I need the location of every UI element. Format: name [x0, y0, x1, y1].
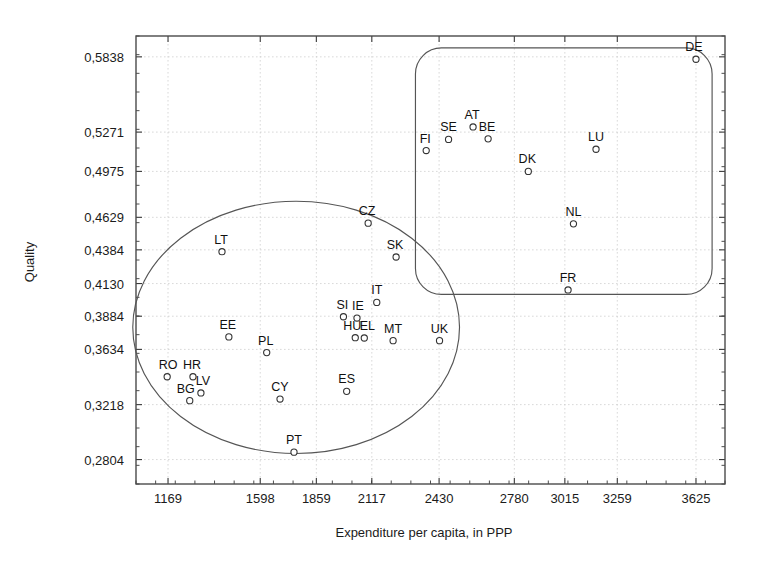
data-point[interactable]: FI [420, 132, 431, 154]
data-point[interactable]: CZ [359, 204, 376, 226]
data-point-label: EL [360, 319, 375, 333]
chart-figure: DEATSEBEFILUDKNLFRCZSKLTITSIIEHUELMTUKEE… [0, 0, 765, 575]
data-point-label: CY [271, 380, 289, 394]
x-tick-label: 2780 [500, 491, 529, 506]
data-point-marker[interactable] [187, 398, 193, 404]
minor-tick-marks [136, 36, 725, 484]
data-point[interactable]: SE [440, 120, 457, 142]
data-point-marker[interactable] [291, 449, 297, 455]
data-point-label: BE [479, 120, 496, 134]
data-point-label: SE [440, 120, 457, 134]
data-point-marker[interactable] [565, 287, 571, 293]
major-tick-marks [136, 36, 725, 484]
data-point-marker[interactable] [374, 299, 380, 305]
data-point[interactable]: SI [337, 298, 349, 320]
data-point-label: CZ [359, 204, 376, 218]
data-point-label: LT [214, 233, 228, 247]
data-point-label: IE [352, 299, 364, 313]
data-point-marker[interactable] [361, 335, 367, 341]
data-point[interactable]: EL [360, 319, 375, 341]
data-point[interactable]: BE [479, 120, 496, 142]
data-point[interactable]: HU [343, 319, 361, 341]
data-point[interactable]: EE [220, 318, 237, 340]
x-axis-tick-labels: 116915981859211724302780301532593625 [154, 491, 710, 506]
data-point-label: LV [196, 374, 211, 388]
data-point-label: PT [286, 433, 302, 447]
data-point-marker[interactable] [393, 254, 399, 260]
y-axis-tick-labels: 0,58380,52710,49750,46290,43840,41300,38… [84, 50, 124, 468]
data-point-label: HR [183, 358, 201, 372]
data-point-label: IT [371, 283, 382, 297]
data-point-marker[interactable] [365, 220, 371, 226]
y-tick-label: 0,2804 [84, 453, 124, 468]
data-point-marker[interactable] [226, 334, 232, 340]
y-axis-title: Quality [22, 241, 37, 282]
data-point[interactable]: LU [588, 130, 604, 152]
data-point-label: FR [560, 271, 577, 285]
y-tick-label: 0,3634 [84, 342, 124, 357]
y-tick-label: 0,3884 [84, 309, 124, 324]
y-tick-label: 0,5838 [84, 50, 124, 65]
data-point-label: EE [220, 318, 237, 332]
data-point[interactable]: ES [338, 372, 355, 394]
y-tick-label: 0,4130 [84, 277, 124, 292]
data-point-marker[interactable] [525, 168, 531, 174]
data-point-label: DE [685, 40, 702, 54]
x-tick-label: 3259 [603, 491, 632, 506]
data-point-marker[interactable] [390, 338, 396, 344]
data-point-marker[interactable] [445, 136, 451, 142]
data-point-marker[interactable] [344, 388, 350, 394]
cluster-outline-left-ellipse [133, 201, 460, 453]
data-point-marker[interactable] [470, 124, 476, 130]
data-point[interactable]: AT [465, 108, 480, 130]
y-tick-label: 0,4384 [84, 243, 124, 258]
x-tick-label: 2430 [425, 491, 454, 506]
data-point[interactable]: NL [565, 205, 581, 227]
data-point-marker[interactable] [593, 146, 599, 152]
data-point[interactable]: LT [214, 233, 228, 255]
data-point[interactable]: DE [685, 40, 702, 62]
data-point-label: ES [338, 372, 355, 386]
data-point-marker[interactable] [436, 338, 442, 344]
data-point-label: PL [258, 334, 273, 348]
data-point-marker[interactable] [264, 349, 270, 355]
y-tick-label: 0,5271 [84, 125, 124, 140]
data-point-label: LU [588, 130, 604, 144]
data-point[interactable]: BG [177, 382, 195, 404]
gridlines [136, 36, 725, 484]
data-point[interactable]: CY [271, 380, 289, 402]
data-point[interactable]: FR [560, 271, 577, 293]
x-tick-label: 1169 [154, 491, 182, 506]
x-tick-label: 1598 [246, 491, 275, 506]
data-point-marker[interactable] [219, 249, 225, 255]
data-point[interactable]: SK [387, 238, 404, 260]
data-point-label: SK [387, 238, 404, 252]
data-point-marker[interactable] [277, 396, 283, 402]
data-point[interactable]: UK [431, 322, 449, 344]
x-tick-label: 3625 [682, 491, 711, 506]
data-point-marker[interactable] [570, 221, 576, 227]
x-tick-label: 3015 [550, 491, 579, 506]
y-tick-label: 0,4629 [84, 210, 124, 225]
data-point[interactable]: IT [371, 283, 382, 305]
plot-frame [136, 36, 725, 484]
data-point-label: BG [177, 382, 195, 396]
data-point-marker[interactable] [164, 374, 170, 380]
data-point[interactable]: MT [384, 322, 402, 344]
data-point-label: MT [384, 322, 402, 336]
data-point-marker[interactable] [485, 136, 491, 142]
data-point-marker[interactable] [423, 147, 429, 153]
data-point[interactable]: PT [286, 433, 302, 455]
data-point-label: NL [565, 205, 581, 219]
data-point[interactable]: RO [159, 358, 178, 380]
x-tick-label: 1859 [302, 491, 331, 506]
scatter-plot: DEATSEBEFILUDKNLFRCZSKLTITSIIEHUELMTUKEE… [0, 0, 765, 575]
data-point-marker[interactable] [693, 56, 699, 62]
data-point-label: RO [159, 358, 178, 372]
x-axis-title: Expenditure per capita, in PPP [335, 525, 512, 540]
data-point-marker[interactable] [352, 335, 358, 341]
data-point-marker[interactable] [198, 390, 204, 396]
data-point-label: FI [420, 132, 431, 146]
data-point-label: SI [337, 298, 349, 312]
data-point[interactable]: LV [196, 374, 211, 396]
